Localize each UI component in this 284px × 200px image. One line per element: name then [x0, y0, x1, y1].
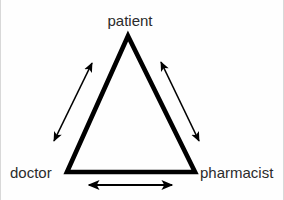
diagram-canvas: patient doctor pharmacist [0, 0, 284, 200]
node-label-pharmacist: pharmacist [200, 165, 273, 180]
arrow-patient-pharmacist [161, 62, 199, 141]
triangle-shape [67, 36, 195, 172]
node-label-patient: patient [0, 13, 260, 28]
node-label-doctor: doctor [10, 165, 52, 180]
